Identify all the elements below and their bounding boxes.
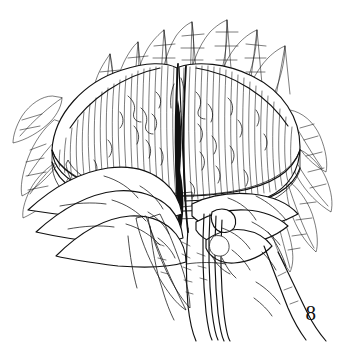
figure-plate: 8 <box>0 0 346 342</box>
figure-number: 8 <box>306 303 317 324</box>
figure-illustration <box>0 0 346 342</box>
